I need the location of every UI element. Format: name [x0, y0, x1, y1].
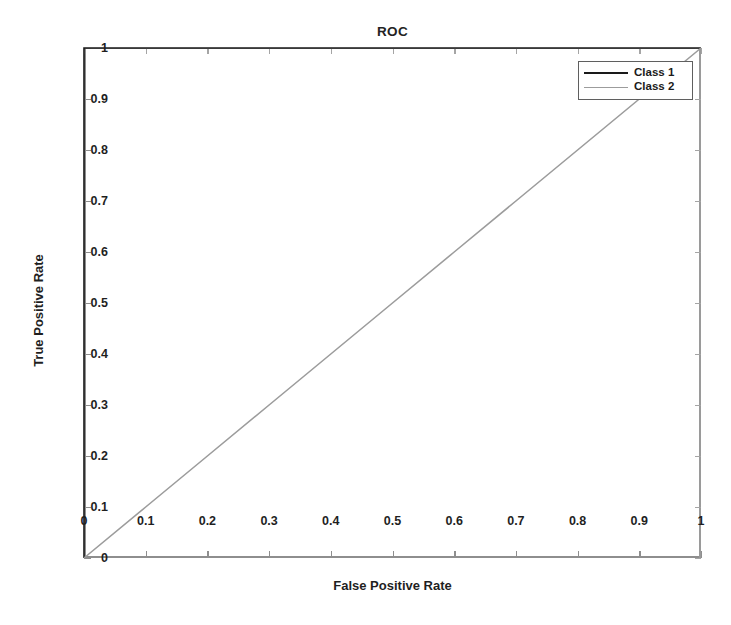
x-tick-label: 1	[698, 514, 705, 528]
y-tick-label: 0.4	[91, 347, 108, 361]
x-tick-label: 0.4	[322, 514, 339, 528]
plot-area: Class 1 Class 2	[84, 48, 701, 558]
legend-swatch-class-1	[584, 72, 628, 74]
x-tick-label: 0.6	[445, 514, 462, 528]
x-tick-label: 0.8	[569, 514, 586, 528]
x-tick	[701, 551, 702, 558]
y-tick-label: 1	[101, 41, 108, 55]
y-tick-label: 0	[101, 551, 108, 565]
y-axis-label: True Positive Rate	[31, 191, 46, 431]
y-tick-label: 0.7	[91, 194, 108, 208]
y-tick-right	[695, 558, 701, 559]
curve-class-2	[84, 48, 701, 558]
chart-legend: Class 1 Class 2	[578, 61, 693, 100]
x-axis-label: False Positive Rate	[84, 578, 701, 593]
legend-swatch-class-2	[584, 87, 628, 88]
y-tick-label: 0.3	[91, 398, 108, 412]
y-tick	[84, 558, 91, 559]
x-tick-top	[701, 48, 702, 54]
chart-title: ROC	[84, 24, 701, 39]
roc-figure: ROC Class 1 Class 2 00.10.20.30.40.50.60…	[0, 0, 731, 625]
legend-item-class-1: Class 1	[584, 66, 687, 80]
y-tick-label: 0.6	[91, 245, 108, 259]
y-tick-label: 0.1	[91, 500, 108, 514]
x-tick-label: 0.5	[384, 514, 401, 528]
legend-label-class-1: Class 1	[634, 67, 674, 79]
legend-item-class-2: Class 2	[584, 80, 687, 94]
x-tick-label: 0.1	[137, 514, 154, 528]
x-tick-label: 0.7	[507, 514, 524, 528]
x-tick-label: 0.3	[260, 514, 277, 528]
x-tick-label: 0.2	[199, 514, 216, 528]
x-tick-label: 0.9	[631, 514, 648, 528]
y-tick-label: 0.8	[91, 143, 108, 157]
y-tick-label: 0.9	[91, 92, 108, 106]
x-tick-label: 0	[81, 514, 88, 528]
data-curves	[84, 48, 701, 558]
legend-label-class-2: Class 2	[634, 81, 674, 93]
y-tick-label: 0.2	[91, 449, 108, 463]
y-tick-label: 0.5	[91, 296, 108, 310]
